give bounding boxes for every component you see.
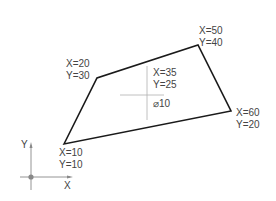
- vertex-label-3: X=50 Y=40: [199, 25, 223, 49]
- origin-dot-icon: [28, 174, 33, 179]
- drawing-canvas: [0, 0, 276, 201]
- x-axis-label: X: [64, 180, 71, 192]
- vertex-label-4: X=60 Y=20: [236, 107, 260, 131]
- hole-center-label: X=35 Y=25: [153, 67, 177, 91]
- vertex-label-2: X=20 Y=30: [66, 58, 90, 82]
- hole-diameter-label: ⌀10: [153, 98, 170, 110]
- hole-y: Y=25: [153, 79, 177, 91]
- vertex-4-y: Y=20: [236, 119, 260, 131]
- y-axis-label: Y: [21, 139, 28, 151]
- vertex-3-y: Y=40: [199, 37, 223, 49]
- vertex-1-x: X=10: [59, 147, 83, 159]
- hole-x: X=35: [153, 67, 177, 79]
- vertex-2-y: Y=30: [66, 70, 90, 82]
- vertex-1-y: Y=10: [59, 159, 83, 171]
- y-axis-arrow-icon: [30, 142, 33, 148]
- vertex-label-1: X=10 Y=10: [59, 147, 83, 171]
- vertex-4-x: X=60: [236, 107, 260, 119]
- x-axis-arrow-icon: [67, 176, 73, 179]
- vertex-3-x: X=50: [199, 25, 223, 37]
- vertex-2-x: X=20: [66, 58, 90, 70]
